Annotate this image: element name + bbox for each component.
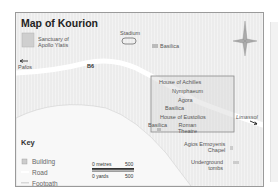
map-frame: Map of Kourion Sanctuary of Apollo Ylati… xyxy=(15,12,264,187)
key-item-building: Building xyxy=(32,158,55,165)
stadium-shape xyxy=(122,38,136,44)
label-house-eustolios[interactable]: House of Eustolios xyxy=(160,114,206,120)
side-panel xyxy=(270,22,278,182)
label-limassol: Limassol xyxy=(236,114,258,120)
label-roman-theatre[interactable]: Roman Theatre xyxy=(178,122,197,134)
label-stadium: Stadium xyxy=(120,30,140,36)
building-icon xyxy=(22,159,27,164)
scale-metres-start: 0 metres xyxy=(92,161,111,167)
key-title: Key xyxy=(21,138,35,147)
arrow-west-icon xyxy=(20,60,28,63)
scale-yards-end: 500 xyxy=(125,173,133,179)
sanctuary-building xyxy=(22,33,34,47)
footpath-swatch xyxy=(21,182,29,184)
label-house-achilles[interactable]: House of Achilles xyxy=(159,79,201,85)
map-title: Map of Kourion xyxy=(21,17,98,29)
scale-metres-end: 500 xyxy=(125,161,133,167)
label-basilica-west[interactable]: Basilica xyxy=(148,122,167,128)
label-nymphaeum[interactable]: Nymphaeum xyxy=(172,88,203,94)
label-agios-chapel[interactable]: Agios Ermoyenis Chapel xyxy=(184,141,225,153)
scale-bar-metres xyxy=(92,168,134,170)
compass-rose-icon xyxy=(233,21,257,56)
label-basilica-site[interactable]: Basilica xyxy=(165,105,184,111)
chapel-glyph xyxy=(230,146,233,150)
label-tombs[interactable]: Underground tombs xyxy=(191,159,223,171)
label-agora[interactable]: Agora xyxy=(178,97,193,103)
basilica-north-glyph xyxy=(152,44,158,48)
road-number: B6 xyxy=(87,63,94,69)
label-basilica-north[interactable]: Basilica xyxy=(160,43,179,49)
key-item-footpath: Footpath xyxy=(32,180,58,187)
scale-bar-yards xyxy=(92,171,134,172)
tombs-glyph xyxy=(233,161,239,164)
scale-yards-start: 0 yards xyxy=(92,173,108,179)
label-sanctuary: Sanctuary of Apollo Ylatis xyxy=(38,36,69,48)
basilica-west-glyph xyxy=(157,128,161,131)
key-item-road: Road xyxy=(32,169,48,176)
road-swatch xyxy=(21,171,29,173)
label-pafos: Pafos xyxy=(18,64,32,70)
